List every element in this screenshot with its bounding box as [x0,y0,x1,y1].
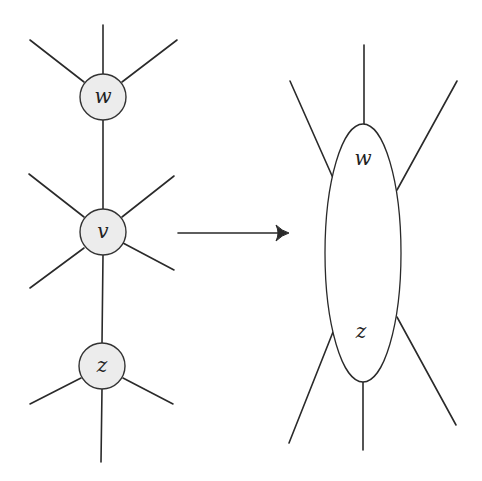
merged-node-label-w: w [354,146,371,170]
arrow-head-icon [276,225,289,241]
edge-merged-upper-left [290,81,333,178]
edge-v-lower-right [123,243,174,270]
node-v-label: v [97,219,109,243]
edge-v-lower-left [30,248,84,288]
edge-z-lower-right [123,378,173,404]
right-graph: w z [289,45,457,450]
edge-w-left [30,40,84,82]
transformation-arrow [178,225,289,241]
edge-w-right [122,40,177,82]
edge-merged-lower-left [289,332,333,443]
edge-z-lower-left [30,378,81,404]
edge-merged-lower-right [397,317,456,425]
node-z-label: z [96,353,108,377]
node-w-label: w [94,84,111,108]
edge-v-upper-left [29,174,84,217]
left-graph: w v z [29,25,177,462]
edge-v-upper-right [122,176,174,217]
contraction-diagram: w v z w z [0,0,482,481]
merged-node-label-z: z [355,319,367,343]
edge-z-bottom [101,389,102,462]
edge-merged-upper-right [397,81,457,190]
edge-v-z [102,255,103,343]
